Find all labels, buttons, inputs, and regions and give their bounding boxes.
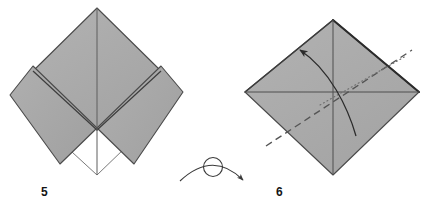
origami-diagram-canvas: 5 6 (0, 0, 423, 208)
turn-over-arc (180, 165, 243, 181)
step6-paper-square (245, 20, 419, 175)
diagram-svg (0, 0, 423, 208)
step-6-number-label: 6 (276, 186, 283, 198)
turn-over-symbol (180, 158, 243, 182)
step-6-figure (245, 20, 419, 175)
step-5-figure (10, 8, 183, 175)
step-5-number-label: 5 (41, 186, 48, 198)
turn-over-loop-icon (204, 158, 223, 177)
